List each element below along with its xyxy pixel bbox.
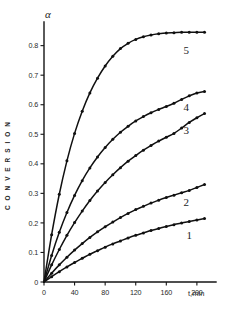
data-point xyxy=(195,116,198,119)
data-point xyxy=(127,212,130,215)
data-point xyxy=(73,261,76,264)
data-point xyxy=(104,146,107,149)
data-point xyxy=(58,193,61,196)
data-point xyxy=(119,239,122,242)
data-point xyxy=(188,31,191,34)
data-point xyxy=(104,225,107,228)
x-tick-label: 80 xyxy=(101,288,109,297)
data-point xyxy=(180,31,183,34)
y-axis-symbol-alpha: α xyxy=(45,8,51,20)
data-point xyxy=(134,154,137,157)
data-point xyxy=(50,275,53,278)
data-point xyxy=(88,166,91,169)
x-tick-label: 120 xyxy=(130,288,142,297)
data-point xyxy=(203,90,206,93)
data-point xyxy=(172,194,175,197)
data-point xyxy=(119,47,122,50)
data-point xyxy=(88,253,91,256)
data-point xyxy=(73,249,76,252)
data-point xyxy=(104,246,107,249)
curve-series-5 xyxy=(44,32,205,282)
data-point xyxy=(165,196,168,199)
data-point xyxy=(88,199,91,202)
data-point xyxy=(104,65,107,68)
data-point xyxy=(96,156,99,159)
data-point xyxy=(81,210,84,213)
data-point xyxy=(111,173,114,176)
y-tick-label: 0.2 xyxy=(29,219,39,228)
data-point xyxy=(96,230,99,233)
data-point xyxy=(127,42,130,45)
y-tick-label: 0 xyxy=(34,278,38,287)
data-point xyxy=(111,55,114,58)
data-curves xyxy=(44,32,205,282)
x-axis-title: t,min xyxy=(188,289,204,298)
data-point xyxy=(203,183,206,186)
data-point xyxy=(81,257,84,260)
data-point xyxy=(180,191,183,194)
y-axis-title: C O N V E R S I O N xyxy=(4,121,11,210)
data-point xyxy=(180,221,183,224)
data-point xyxy=(157,32,160,35)
data-point xyxy=(50,233,53,236)
data-point xyxy=(172,102,175,105)
data-point xyxy=(65,159,68,162)
data-point xyxy=(188,220,191,223)
data-point xyxy=(65,256,68,259)
data-point xyxy=(203,217,206,220)
data-point xyxy=(50,254,53,257)
data-point xyxy=(81,242,84,245)
data-point xyxy=(96,249,99,252)
data-point xyxy=(172,132,175,135)
x-tick-label: 40 xyxy=(71,288,79,297)
curve-series-4 xyxy=(44,91,205,282)
data-point xyxy=(65,234,68,237)
chart-figure: 00.10.20.30.40.50.60.70.804080120160200 … xyxy=(0,0,233,310)
data-point xyxy=(73,132,76,135)
y-tick-label: 0.4 xyxy=(29,159,39,168)
x-tick-label: 160 xyxy=(161,288,173,297)
data-point xyxy=(111,242,114,245)
data-point xyxy=(157,227,160,230)
data-point xyxy=(157,108,160,111)
data-point xyxy=(203,112,206,115)
data-point xyxy=(50,263,53,266)
axis-ticks xyxy=(41,46,197,286)
data-point xyxy=(165,136,168,139)
data-point xyxy=(65,211,68,214)
data-point xyxy=(134,208,137,211)
data-point xyxy=(111,221,114,224)
y-tick-label: 0.1 xyxy=(29,248,39,257)
curve-label-3: 3 xyxy=(183,124,189,136)
data-point xyxy=(119,166,122,169)
series-labels: 12345 xyxy=(183,44,192,241)
y-tick-label: 0.3 xyxy=(29,189,39,198)
x-tick-label: 0 xyxy=(42,288,46,297)
data-point xyxy=(81,179,84,182)
data-point xyxy=(172,223,175,226)
curve-label-1: 1 xyxy=(186,229,192,241)
data-point xyxy=(119,216,122,219)
data-point xyxy=(65,265,68,268)
data-point xyxy=(172,31,175,34)
data-point xyxy=(58,263,61,266)
data-point xyxy=(150,111,153,114)
y-tick-label: 0.8 xyxy=(29,41,39,50)
data-point xyxy=(58,270,61,273)
data-point xyxy=(150,202,153,205)
conversion-kinetics-plot: 00.10.20.30.40.50.60.70.804080120160200 … xyxy=(0,0,233,310)
data-point xyxy=(134,38,137,41)
curve-label-5: 5 xyxy=(183,44,189,56)
data-point xyxy=(88,91,91,94)
data-point xyxy=(73,194,76,197)
data-point xyxy=(188,189,191,192)
data-point xyxy=(203,31,206,34)
data-point xyxy=(58,231,61,234)
data-point xyxy=(195,31,198,34)
data-markers xyxy=(50,31,206,278)
y-tick-label: 0.5 xyxy=(29,130,39,139)
data-point xyxy=(165,105,168,108)
data-point xyxy=(127,125,130,128)
data-point xyxy=(58,248,61,251)
data-point xyxy=(134,119,137,122)
